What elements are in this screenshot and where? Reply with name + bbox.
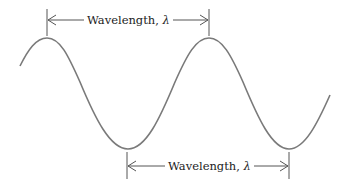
lambda-symbol: λ: [163, 13, 170, 27]
lambda-symbol: λ: [244, 159, 251, 173]
label-text: Wavelength,: [168, 159, 244, 173]
bottom-wavelength-label: Wavelength, λ: [165, 160, 254, 173]
top-wavelength-label: Wavelength, λ: [84, 14, 173, 27]
sine-wave: [20, 38, 330, 149]
label-text: Wavelength,: [87, 13, 163, 27]
